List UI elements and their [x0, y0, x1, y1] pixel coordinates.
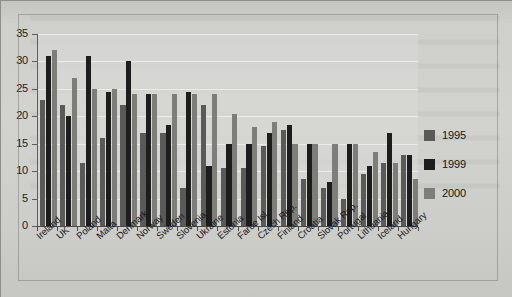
bar — [126, 61, 131, 226]
bar-group — [361, 34, 378, 226]
legend-label: 1995 — [442, 129, 466, 141]
bar-group — [80, 34, 97, 226]
bar — [201, 105, 206, 226]
bar-group — [201, 34, 218, 226]
plot-area — [37, 34, 418, 226]
bar — [92, 89, 97, 226]
legend-item: 1999 — [424, 158, 508, 170]
y-axis-tick-label: 5 — [22, 192, 28, 204]
bar — [226, 144, 231, 226]
bar-group — [281, 34, 298, 226]
bar-group — [241, 34, 258, 226]
bar-group — [401, 34, 418, 226]
bar — [252, 127, 257, 226]
bar-group — [381, 34, 398, 226]
bar — [120, 105, 125, 226]
bar — [86, 56, 91, 226]
bar-group — [100, 34, 117, 226]
bar — [246, 144, 251, 226]
bar — [307, 144, 312, 226]
bar — [100, 138, 105, 226]
chart-legend: 199519992000 — [424, 129, 508, 216]
bar — [106, 92, 111, 226]
bar-group — [261, 34, 278, 226]
bar-group — [321, 34, 338, 226]
bar — [186, 92, 191, 226]
bar-group — [180, 34, 197, 226]
legend-item: 2000 — [424, 187, 508, 199]
bar — [132, 94, 137, 226]
legend-swatch — [424, 130, 435, 141]
legend-swatch — [424, 188, 435, 199]
bar — [72, 78, 77, 226]
bar — [192, 94, 197, 226]
bar — [66, 116, 71, 226]
bar — [172, 94, 177, 226]
bar-group — [140, 34, 157, 226]
bar — [146, 94, 151, 226]
bar-group — [341, 34, 358, 226]
bar-group — [221, 34, 238, 226]
y-axis-tick-label: 25 — [16, 82, 28, 94]
bar — [232, 114, 237, 226]
bar — [152, 94, 157, 226]
bar — [272, 122, 277, 226]
bar — [112, 89, 117, 226]
bar — [401, 155, 406, 226]
y-axis-tick-label: 20 — [16, 109, 28, 121]
y-axis-tick-label: 10 — [16, 164, 28, 176]
bar-group — [160, 34, 177, 226]
bar — [212, 94, 217, 226]
bar — [46, 56, 51, 226]
legend-label: 1999 — [442, 158, 466, 170]
y-axis-tick-label: 15 — [16, 137, 28, 149]
bar — [60, 105, 65, 226]
bar — [160, 133, 165, 226]
y-axis-tick-label: 35 — [16, 27, 28, 39]
bar — [52, 50, 57, 226]
chart-screenshot: 05101520253035 IrelandUKPolandMaltaDenma… — [0, 0, 512, 297]
bar — [166, 125, 171, 226]
x-axis-tick — [418, 227, 419, 231]
legend-item: 1995 — [424, 129, 508, 141]
bar-group — [301, 34, 318, 226]
y-axis-tick-label: 0 — [22, 219, 28, 231]
bar-group — [40, 34, 57, 226]
bar-group — [120, 34, 137, 226]
bar — [40, 100, 45, 226]
y-axis-tick-label: 30 — [16, 54, 28, 66]
legend-swatch — [424, 159, 435, 170]
bar — [407, 155, 412, 226]
bar — [80, 163, 85, 226]
legend-label: 2000 — [442, 187, 466, 199]
bar-group — [60, 34, 77, 226]
